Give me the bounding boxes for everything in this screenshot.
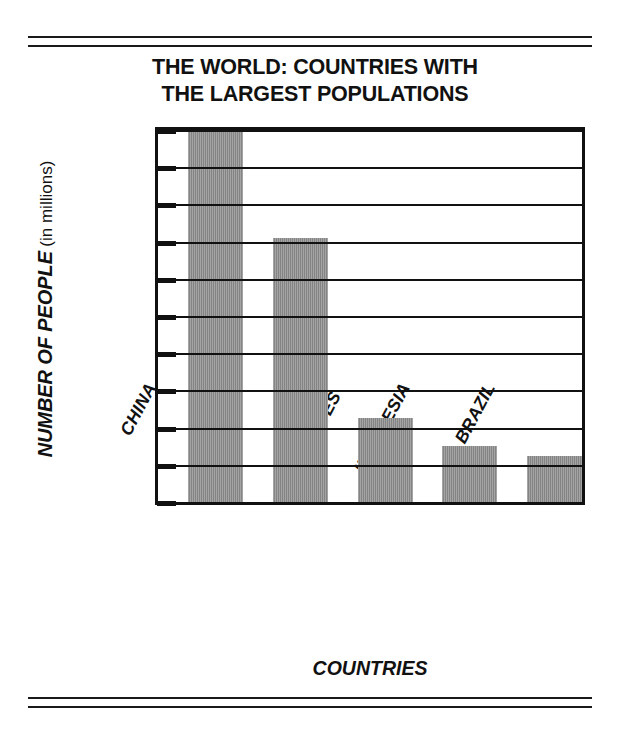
gridline — [158, 428, 582, 430]
gridline — [158, 167, 582, 169]
gridline — [158, 390, 582, 392]
plot-area: 1,0009008007006005004003002001000 — [155, 127, 585, 505]
y-axis-title-unit: (in millions) — [37, 161, 56, 247]
bar — [358, 418, 413, 502]
bar — [442, 446, 497, 502]
y-axis-tick — [157, 352, 176, 357]
y-axis-tick — [157, 427, 176, 432]
gridline — [158, 130, 582, 132]
y-axis-tick — [157, 166, 176, 171]
y-axis-tick — [157, 203, 176, 208]
top-rule-upper — [28, 36, 592, 38]
x-axis-title: COUNTRIES — [155, 657, 585, 680]
bottom-rule-lower — [28, 706, 592, 708]
chart-figure: THE WORLD: COUNTRIES WITH THE LARGEST PO… — [0, 0, 621, 735]
chart-title-line-2: THE LARGEST POPULATIONS — [70, 81, 560, 108]
y-axis-tick — [157, 315, 176, 320]
gridline — [158, 465, 582, 467]
top-rule-lower — [28, 45, 592, 47]
bar — [273, 238, 328, 502]
y-axis-tick — [157, 501, 176, 506]
gridline — [158, 204, 582, 206]
y-axis-tick — [157, 278, 176, 283]
gridline — [158, 353, 582, 355]
chart-title: THE WORLD: COUNTRIES WITH THE LARGEST PO… — [70, 54, 560, 108]
chart-title-line-1: THE WORLD: COUNTRIES WITH — [70, 54, 560, 81]
y-axis-tick — [157, 464, 176, 469]
gridline — [158, 316, 582, 318]
bottom-rule-upper — [28, 697, 592, 699]
gridline — [158, 279, 582, 281]
y-axis-tick — [157, 129, 176, 134]
y-axis-title: NUMBER OF PEOPLE (in millions) — [34, 144, 60, 474]
y-axis-tick — [157, 389, 176, 394]
gridline — [158, 242, 582, 244]
y-axis-tick — [157, 241, 176, 246]
y-axis-title-main: NUMBER OF PEOPLE — [34, 251, 56, 457]
bar — [527, 456, 582, 503]
x-axis-tick-label: CHINA — [72, 380, 160, 522]
